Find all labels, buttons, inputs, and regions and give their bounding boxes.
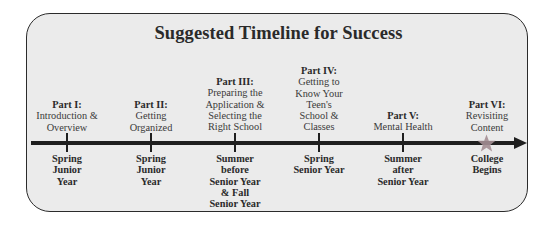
milestone-when-part-2: Spring Junior Year [103,153,199,187]
milestone-part-label: Part VI: [439,99,535,110]
milestone-description: Revisiting Content [439,110,535,133]
milestone-tick-part-4 [318,133,320,152]
milestone-when-part-3: Summer before Senior Year & Fall Senior … [187,153,283,209]
milestone-header-part-3: Part III: Preparing the Application & Se… [187,76,283,132]
milestone-part-label: Part II: [103,99,199,110]
milestone-tick-part-3 [234,133,236,152]
milestone-part-label: Part I: [19,99,115,110]
milestone-description: Preparing the Application & Selecting th… [187,87,283,132]
milestone-tick-part-1 [66,133,68,152]
milestone-header-part-4: Part IV: Getting to Know Your Teen's Sch… [271,65,367,133]
milestone-description: Introduction & Overview [19,110,115,133]
milestone-part-label: Part III: [187,76,283,87]
milestone-tick-part-2 [150,133,152,152]
milestone-description: Mental Health [355,121,451,132]
milestone-description: Getting Organized [103,110,199,133]
milestone-header-part-6: Part VI: Revisiting Content [439,99,535,133]
milestone-when-part-6: College Begins [439,153,535,176]
timeline-title: Suggested Timeline for Success [0,23,557,44]
milestone-when-part-4: Spring Senior Year [271,153,367,176]
timeline-axis [31,141,517,145]
milestone-header-part-2: Part II: Getting Organized [103,99,199,133]
milestone-header-part-1: Part I: Introduction & Overview [19,99,115,133]
milestone-when-part-5: Summer after Senior Year [355,153,451,187]
milestone-when-part-1: Spring Junior Year [19,153,115,187]
milestone-tick-part-5 [402,133,404,152]
milestone-description: Getting to Know Your Teen's School & Cla… [271,76,367,132]
milestone-part-label: Part V: [355,110,451,121]
arrow-right-icon [514,137,527,149]
milestone-part-label: Part IV: [271,65,367,76]
milestone-header-part-5: Part V: Mental Health [355,110,451,133]
star-icon [477,134,496,152]
